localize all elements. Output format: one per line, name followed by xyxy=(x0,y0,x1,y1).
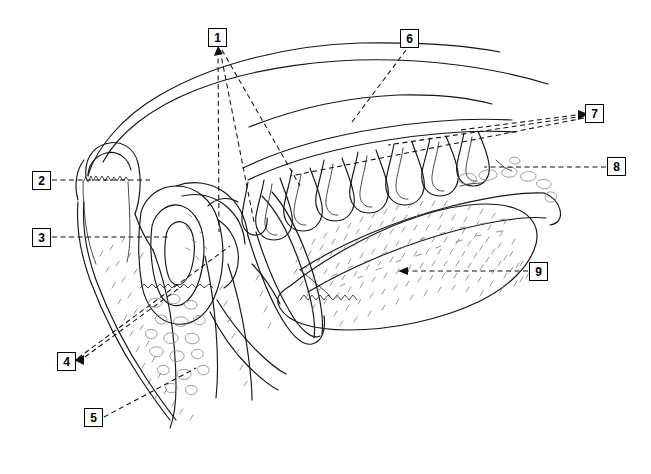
leader-1 xyxy=(214,46,300,232)
callout-label-8[interactable]: 8 xyxy=(607,157,626,176)
callout-label-4[interactable]: 4 xyxy=(57,352,76,371)
callout-label-5-text: 5 xyxy=(90,412,97,424)
callout-label-9[interactable]: 9 xyxy=(529,262,548,281)
callout-label-1-text: 1 xyxy=(214,32,221,44)
diagram-canvas xyxy=(0,0,651,474)
callout-label-8-text: 8 xyxy=(613,161,620,173)
callout-label-6[interactable]: 6 xyxy=(400,29,419,48)
callout-label-7[interactable]: 7 xyxy=(585,104,604,123)
stippled-mass-group xyxy=(278,201,537,330)
palate-band-group xyxy=(300,157,561,296)
callout-label-4-text: 4 xyxy=(63,356,70,368)
leader-9 xyxy=(398,267,528,275)
left-lobe-group xyxy=(76,143,176,420)
callout-label-7-text: 7 xyxy=(591,108,598,120)
callout-label-2-text: 2 xyxy=(38,175,45,187)
anatomy-diagram: 1 2 3 4 5 6 7 8 9 xyxy=(0,0,651,474)
callout-label-2[interactable]: 2 xyxy=(32,171,51,190)
turbinate-scroll-group xyxy=(139,183,248,325)
callout-label-3[interactable]: 3 xyxy=(32,228,51,247)
callout-label-6-text: 6 xyxy=(406,33,413,45)
callout-label-5[interactable]: 5 xyxy=(84,408,103,427)
leader-6 xyxy=(352,50,406,122)
trabecular-bone-group xyxy=(100,237,280,428)
callout-label-9-text: 9 xyxy=(535,266,542,278)
callout-label-3-text: 3 xyxy=(38,232,45,244)
callout-label-1[interactable]: 1 xyxy=(208,28,227,47)
teardrop-row-group xyxy=(242,119,516,240)
